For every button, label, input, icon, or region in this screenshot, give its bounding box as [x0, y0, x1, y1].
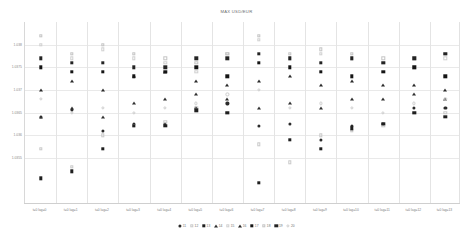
- legend-marker-icon: [275, 224, 278, 227]
- data-point: [163, 66, 166, 69]
- data-point: [39, 116, 43, 119]
- legend-marker-icon: [250, 224, 253, 227]
- data-point: [132, 66, 135, 69]
- data-point: [226, 52, 229, 55]
- legend-item[interactable]: 12: [190, 224, 198, 228]
- data-point: [226, 111, 229, 114]
- data-point: [257, 124, 260, 127]
- y-axis-tick-label: 1.0365: [12, 111, 22, 115]
- data-point: [39, 88, 43, 91]
- legend-item[interactable]: 11: [178, 224, 186, 228]
- data-point: [101, 116, 105, 119]
- data-point: [101, 61, 104, 64]
- data-point: [319, 106, 323, 109]
- legend-marker-icon: [214, 224, 217, 227]
- data-point: [350, 56, 353, 59]
- data-point: [163, 124, 166, 127]
- legend-marker-icon: [238, 224, 241, 227]
- x-axis-tick-label: t=0 lag=7: [251, 208, 265, 212]
- data-point: [225, 84, 229, 87]
- data-point: [257, 88, 260, 91]
- data-point: [132, 56, 135, 59]
- legend-label: 14: [219, 224, 223, 228]
- legend-label: 15: [231, 224, 235, 228]
- data-point: [381, 56, 384, 59]
- gridline-horizontal: [25, 158, 459, 159]
- legend-item[interactable]: 18: [262, 224, 270, 228]
- data-point: [101, 133, 104, 136]
- x-axis-tick-label: t=0 lag=11: [374, 208, 389, 212]
- data-point: [443, 88, 447, 91]
- data-point: [70, 170, 73, 173]
- x-axis-tick-label: t=0 lag=1: [64, 208, 78, 212]
- legend-item[interactable]: 17: [250, 224, 258, 228]
- data-point: [319, 61, 322, 64]
- legend-item[interactable]: 13: [202, 224, 210, 228]
- legend-marker-icon: [202, 224, 205, 227]
- legend-label: 11: [183, 224, 186, 228]
- data-point: [413, 56, 416, 59]
- data-point: [70, 52, 73, 55]
- data-point: [350, 127, 353, 130]
- data-point: [319, 47, 322, 50]
- data-point: [163, 97, 167, 100]
- x-axis-tick-label: t=0 lag=13: [437, 208, 453, 212]
- data-point: [195, 61, 198, 64]
- data-point: [132, 52, 135, 55]
- data-point: [70, 61, 73, 64]
- gridline-vertical: [56, 22, 57, 203]
- data-point: [257, 61, 260, 64]
- data-point: [39, 56, 42, 59]
- legend-item[interactable]: 15: [226, 224, 234, 228]
- x-axis-tick-label: t=0 lag=5: [188, 208, 202, 212]
- data-point: [381, 84, 385, 87]
- data-point: [288, 161, 291, 164]
- data-point: [381, 122, 384, 125]
- y-axis-tick-labels: 1.0381.03751.0371.03651.0361.0355: [0, 0, 24, 242]
- gridline-horizontal: [25, 45, 459, 46]
- data-point: [39, 66, 42, 69]
- data-point: [164, 106, 167, 109]
- data-point: [257, 52, 260, 55]
- legend-marker-icon: [226, 224, 229, 227]
- data-point: [444, 75, 447, 78]
- legend-label: 17: [255, 224, 259, 228]
- data-point: [70, 111, 73, 114]
- data-point: [257, 38, 260, 41]
- legend-item[interactable]: 14: [214, 224, 222, 228]
- data-point: [70, 79, 74, 82]
- x-axis-line: [24, 203, 460, 204]
- data-point: [194, 79, 198, 82]
- data-point: [195, 109, 198, 112]
- chart-title: MAX USD/EUR: [0, 9, 473, 14]
- y-axis-tick-label: 1.0355: [12, 156, 22, 160]
- gridline-vertical: [150, 22, 151, 203]
- data-point: [101, 43, 104, 46]
- data-point: [288, 75, 292, 78]
- x-axis-tick-label: t=0 lag=12: [405, 208, 421, 212]
- data-point: [70, 165, 73, 168]
- data-point: [163, 70, 166, 73]
- data-point: [257, 142, 260, 145]
- legend-item[interactable]: 16: [238, 224, 246, 228]
- gridline-horizontal: [25, 90, 459, 91]
- data-point: [195, 66, 198, 69]
- data-point: [225, 97, 229, 100]
- gridline-vertical: [181, 22, 182, 203]
- data-point: [39, 176, 42, 179]
- data-point: [413, 66, 416, 69]
- gridline-vertical: [336, 22, 337, 203]
- data-point: [350, 106, 353, 109]
- gridline-vertical: [118, 22, 119, 203]
- data-point: [132, 111, 135, 114]
- legend-label: 13: [207, 224, 211, 228]
- data-point: [288, 52, 291, 55]
- legend-item[interactable]: 19: [275, 224, 283, 228]
- data-point: [413, 102, 416, 105]
- data-point: [101, 70, 104, 73]
- data-point: [257, 181, 260, 184]
- x-axis-tick-label: t=0 lag=10: [343, 208, 359, 212]
- data-point: [444, 106, 447, 109]
- legend-item[interactable]: 20: [287, 224, 295, 228]
- data-point: [350, 52, 353, 55]
